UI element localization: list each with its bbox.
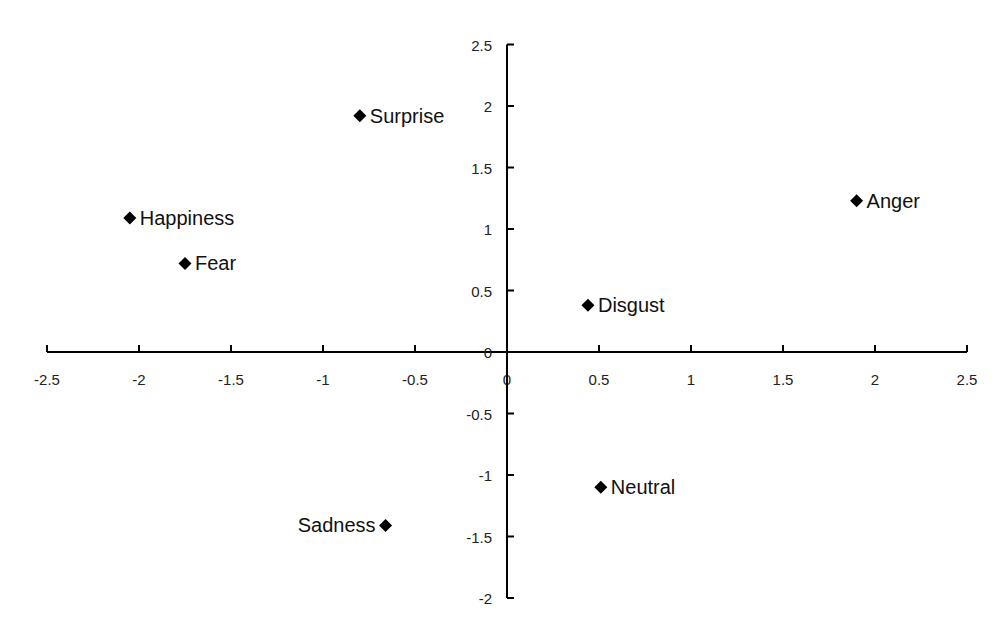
point-label: Happiness xyxy=(140,207,235,229)
data-point-anger: Anger xyxy=(850,190,920,212)
x-tick-label: -2 xyxy=(132,371,145,388)
y-tick-label: -1.5 xyxy=(466,529,492,546)
diamond-marker-icon xyxy=(850,194,863,207)
x-tick-label: -0.5 xyxy=(402,371,428,388)
point-label: Anger xyxy=(867,190,921,212)
data-point-neutral: Neutral xyxy=(594,476,675,498)
x-tick-label: 2 xyxy=(871,371,879,388)
point-label: Fear xyxy=(195,252,236,274)
y-tick-label: 2.5 xyxy=(471,37,492,54)
y-tick-label: -2 xyxy=(479,590,492,607)
x-tick-label: 0.5 xyxy=(589,371,610,388)
data-point-sadness: Sadness xyxy=(298,514,392,536)
diamond-marker-icon xyxy=(581,299,594,312)
x-axis: -2.5-2-1.5-1-0.500.511.522.5 xyxy=(34,345,977,388)
y-tick-label: 2 xyxy=(484,98,492,115)
point-label: Sadness xyxy=(298,514,376,536)
data-points: SurpriseHappinessFearAngerDisgustNeutral… xyxy=(123,105,920,537)
y-tick-label: 1 xyxy=(484,221,492,238)
x-tick-label: -1.5 xyxy=(218,371,244,388)
diamond-marker-icon xyxy=(353,109,366,122)
diamond-marker-icon xyxy=(179,257,192,270)
y-tick-label: 0.5 xyxy=(471,283,492,300)
point-label: Surprise xyxy=(370,105,444,127)
x-tick-label: 1.5 xyxy=(773,371,794,388)
y-tick-label: 0 xyxy=(484,344,492,361)
point-label: Disgust xyxy=(598,294,665,316)
x-tick-label: 2.5 xyxy=(957,371,978,388)
x-tick-label: -1 xyxy=(316,371,329,388)
x-tick-label: -2.5 xyxy=(34,371,60,388)
scatter-chart: -2.5-2-1.5-1-0.500.511.522.5 -2-1.5-1-0.… xyxy=(0,0,1008,639)
data-point-disgust: Disgust xyxy=(581,294,665,316)
diamond-marker-icon xyxy=(123,211,136,224)
data-point-fear: Fear xyxy=(179,252,237,274)
y-axis: -2-1.5-1-0.500.511.522.5 xyxy=(466,37,514,608)
diamond-marker-icon xyxy=(379,519,392,532)
y-tick-label: -0.5 xyxy=(466,406,492,423)
point-label: Neutral xyxy=(611,476,675,498)
data-point-surprise: Surprise xyxy=(353,105,444,127)
diamond-marker-icon xyxy=(594,481,607,494)
y-tick-label: 1.5 xyxy=(471,160,492,177)
data-point-happiness: Happiness xyxy=(123,207,234,229)
y-tick-label: -1 xyxy=(479,467,492,484)
x-tick-label: 1 xyxy=(687,371,695,388)
